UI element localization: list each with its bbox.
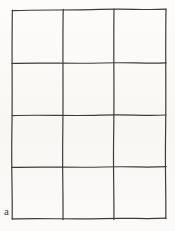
grid-line-v1 <box>63 9 64 219</box>
grid-line-v2 <box>113 9 114 219</box>
grid-line-left <box>12 10 13 219</box>
figure-panel: a <box>0 0 175 231</box>
grid-horizontal-lines <box>12 9 166 219</box>
grid-line-h1 <box>12 63 166 64</box>
panel-label: a <box>4 204 16 219</box>
grid-line-h3 <box>12 167 166 168</box>
grid-vertical-lines <box>12 9 166 220</box>
grid-line-bottom <box>12 218 166 219</box>
grid-line-top <box>12 9 166 11</box>
grid-line-right <box>165 9 166 219</box>
grid-line-h2 <box>12 115 166 116</box>
hand-drawn-grid <box>0 0 175 231</box>
